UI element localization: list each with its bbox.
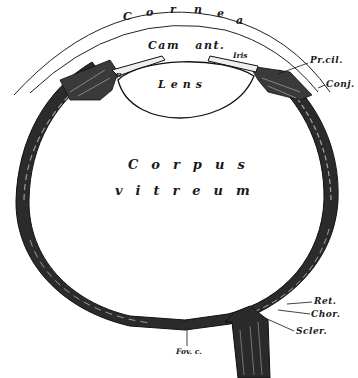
optic-nerve (225, 306, 270, 378)
pr-cil-leader (278, 63, 308, 74)
scler-leader (265, 318, 294, 331)
ciliary-right (250, 66, 312, 100)
cornea-letter-n: n (194, 3, 202, 16)
label-chor: Chor. (311, 310, 340, 319)
label-conj: Conj. (326, 80, 355, 89)
label-p: p (116, 71, 121, 79)
cornea-letter-o: o (146, 6, 153, 19)
eye-section-diagram: C o r n e a Cam ant. Iris Lens p Pr.cil.… (0, 0, 358, 378)
chor-leader (278, 310, 310, 314)
cornea-letter-a: a (236, 14, 243, 27)
label-cam-ant: Cam ant. (148, 40, 225, 51)
ret-leader (287, 302, 312, 304)
cornea-letter-r: r (170, 3, 176, 16)
label-fov-c: Fov. c. (176, 348, 202, 356)
label-vitreum: vitreum (115, 184, 263, 197)
label-scler: Scler. (296, 327, 327, 336)
cornea-letter-c: C (123, 10, 132, 23)
label-iris: Iris (233, 52, 248, 60)
label-pr-cil: Pr.cil. (310, 56, 343, 65)
cornea-letter-e: e (217, 7, 224, 20)
label-lens: Lens (158, 79, 207, 90)
label-ret: Ret. (314, 297, 337, 306)
label-corpus: Corpus (128, 158, 258, 171)
conj-leader (318, 85, 325, 88)
